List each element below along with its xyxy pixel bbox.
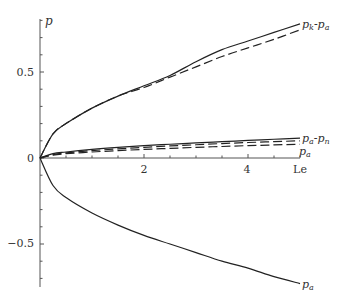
curve-label-pa-mid: pa [299, 145, 311, 159]
x-tick-label-2: 2 [141, 163, 148, 176]
x-axis-label: Le [293, 163, 307, 176]
x-tick-label-4: 4 [244, 163, 251, 176]
y-tick-label-neg0.5: −0.5 [7, 237, 34, 250]
curve-1 [40, 30, 300, 158]
y-axis-label: p [45, 14, 53, 28]
curve-3 [40, 141, 300, 158]
curve-label-pk-pa: pk-pa [302, 18, 330, 32]
curve-5 [40, 158, 300, 284]
y-tick-label-0.5: 0.5 [17, 66, 35, 79]
curve-label-pa-bottom: pa [302, 278, 314, 292]
curves [40, 24, 300, 284]
y-tick-label-0: 0 [27, 152, 34, 165]
x-axis [40, 154, 300, 158]
curve-label-pa-pn: pa-pn [302, 132, 330, 146]
chart: 0.5 0 −0.5 2 4 p Le pk-pa pa-pn pa pa [0, 0, 346, 303]
